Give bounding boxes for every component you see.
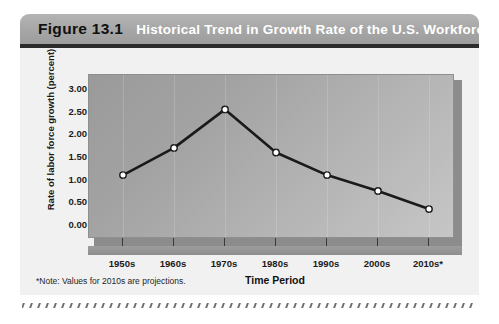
perforation-dash: [285, 303, 289, 308]
x-tick-label: 2000s: [364, 258, 390, 269]
perforation-dash: [445, 303, 449, 308]
perforation-dash: [149, 303, 153, 308]
perforation-dash: [469, 303, 473, 308]
perforation-dash: [181, 303, 185, 308]
perforation-dash: [109, 303, 113, 308]
grid-line: [225, 75, 226, 237]
figure-header: Figure 13.1 Historical Trend in Growth R…: [20, 14, 479, 48]
perforation-dash: [125, 303, 129, 308]
x-tick-mark: [173, 238, 174, 246]
y-tick-label: 0.00: [69, 219, 88, 230]
x-tick-mark: [326, 238, 327, 246]
perforation-dash: [117, 303, 121, 308]
perforation-dash: [381, 303, 385, 308]
perforation-dash: [197, 303, 201, 308]
perforation-dash: [213, 303, 217, 308]
perforation-dash: [341, 303, 345, 308]
perforation-dash: [29, 303, 33, 308]
x-tick-mark: [377, 238, 378, 246]
perforation-dash: [173, 303, 177, 308]
x-tick-label: 1970s: [211, 258, 237, 269]
grid-line: [429, 75, 430, 237]
perforation-dash: [421, 303, 425, 308]
perforated-edge: [22, 303, 477, 308]
grid-line: [378, 75, 379, 237]
perforation-dash: [53, 303, 57, 308]
perforation-dash: [269, 303, 273, 308]
perforation-dash: [85, 303, 89, 308]
y-tick-label: 1.50: [69, 151, 88, 162]
perforation-dash: [205, 303, 209, 308]
perforation-dash: [349, 303, 353, 308]
perforation-dash: [413, 303, 417, 308]
perforation-dash: [453, 303, 457, 308]
perforation-dash: [253, 303, 257, 308]
x-tick-mark: [275, 238, 276, 246]
plot-area: [88, 74, 462, 246]
y-tick-label: 3.00: [69, 83, 88, 94]
perforation-dash: [405, 303, 409, 308]
x-tick-mark: [428, 238, 429, 246]
y-axis-tick-labels: 3.002.502.001.501.000.500.00: [53, 80, 87, 220]
plot-panel: [88, 74, 454, 238]
perforation-dash: [22, 303, 25, 308]
perforation-dash: [333, 303, 337, 308]
perforation-dash: [317, 303, 321, 308]
perforation-dash: [61, 303, 65, 308]
x-tick-label: 1960s: [160, 258, 186, 269]
y-tick-label: 2.00: [69, 128, 88, 139]
figure-card: Figure 13.1 Historical Trend in Growth R…: [20, 14, 479, 295]
y-tick-label: 1.00: [69, 173, 88, 184]
perforation-dash: [293, 303, 297, 308]
figure-title: Historical Trend in Growth Rate of the U…: [123, 22, 492, 37]
perforation-dash: [93, 303, 97, 308]
perforation-dash: [301, 303, 305, 308]
figure-container: Figure 13.1 Historical Trend in Growth R…: [0, 0, 499, 324]
perforation-dash: [429, 303, 433, 308]
grid-line: [327, 75, 328, 237]
x-tick-mark: [122, 238, 123, 246]
perforation-dash: [373, 303, 377, 308]
perforation-dash: [237, 303, 241, 308]
perforation-dash: [309, 303, 313, 308]
x-axis-tick-labels: 1950s1960s1970s1980s1990s2000s2010s*: [88, 258, 462, 272]
y-tick-label: 2.50: [69, 105, 88, 116]
x-tick-label: 2010s*: [413, 258, 443, 269]
perforation-dash: [261, 303, 265, 308]
perforation-dash: [189, 303, 193, 308]
perforation-dash: [101, 303, 105, 308]
perforation-dash: [437, 303, 441, 308]
perforation-dash: [165, 303, 169, 308]
perforation-dash: [389, 303, 393, 308]
perforation-dash: [461, 303, 465, 308]
perforation-dash: [133, 303, 137, 308]
x-tick-label: 1950s: [109, 258, 135, 269]
perforation-dash: [45, 303, 49, 308]
figure-number: Figure 13.1: [20, 20, 123, 38]
perforation-dash: [357, 303, 361, 308]
perforation-dash: [221, 303, 225, 308]
grid-line: [174, 75, 175, 237]
perforation-dash: [229, 303, 233, 308]
perforation-dash: [277, 303, 281, 308]
grid-line: [276, 75, 277, 237]
chart-body: Rate of labor force growth (percent) 3.0…: [20, 48, 479, 295]
y-tick-label: 0.50: [69, 196, 88, 207]
perforation-dash: [157, 303, 161, 308]
x-tick-label: 1980s: [262, 258, 288, 269]
perforation-dash: [325, 303, 329, 308]
perforation-dash: [69, 303, 73, 308]
perforation-dash: [77, 303, 81, 308]
perforation-dash: [365, 303, 369, 308]
line-series: [89, 75, 454, 238]
perforation-dash: [245, 303, 249, 308]
figure-note: *Note: Values for 2010s are projections.: [36, 276, 186, 286]
perforation-dash: [37, 303, 41, 308]
perforation-dash: [397, 303, 401, 308]
perforation-dash: [141, 303, 145, 308]
x-tick-label: 1990s: [313, 258, 339, 269]
grid-line: [123, 75, 124, 237]
x-tick-mark: [224, 238, 225, 246]
x-axis-band: [88, 246, 462, 255]
